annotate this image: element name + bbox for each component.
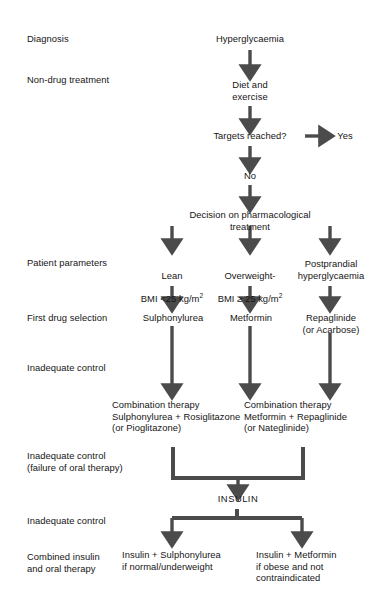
node-branch-postprandial: Postprandial hyperglycaemia bbox=[283, 258, 379, 281]
node-final-insulin-sulphonylurea: Insulin + Sulphonylurea if normal/underw… bbox=[122, 549, 252, 572]
node-final-insulin-metformin: Insulin + Metformin if obese and not con… bbox=[256, 549, 386, 584]
stage-label-combined-insulin-oral-therapy: Combined insulin and oral therapy bbox=[27, 551, 100, 574]
stage-label-inadequate-control-1: Inadequate control bbox=[27, 362, 106, 374]
node-drug-repaglinide: Repaglinide (or Acarbose) bbox=[283, 312, 379, 335]
branch-lean-line1: Lean bbox=[161, 270, 182, 281]
branch-overweight-line2: BMI ≥ 25 kg/m bbox=[218, 293, 279, 304]
node-decision-pharmacological-treatment: Decision on pharmacological treatment bbox=[181, 209, 320, 232]
stage-label-first-drug-selection: First drug selection bbox=[27, 312, 107, 324]
stage-label-non-drug-treatment: Non-drug treatment bbox=[27, 74, 109, 86]
node-yes: Yes bbox=[337, 130, 352, 142]
node-insulin: INSULIN bbox=[218, 493, 259, 505]
node-diet-and-exercise: Diet and exercise bbox=[232, 79, 267, 102]
split-bracket-from-insulin bbox=[172, 509, 302, 518]
node-hyperglycaemia: Hyperglycaemia bbox=[216, 33, 284, 45]
node-drug-metformin: Metformin bbox=[230, 312, 272, 324]
branch-overweight-superscript: 2 bbox=[279, 292, 283, 299]
node-combination-therapy-right: Combination therapy Metformin + Repaglin… bbox=[244, 399, 384, 434]
stage-label-inadequate-control-oral-failure: Inadequate control (failure of oral ther… bbox=[27, 450, 123, 473]
node-drug-sulphonylurea: Sulphonylurea bbox=[143, 312, 204, 324]
branch-lean-line2: BMI <25 kg/m bbox=[141, 293, 200, 304]
stage-label-diagnosis: Diagnosis bbox=[27, 33, 69, 45]
node-combination-therapy-left: Combination therapy Sulphonylurea + Rosi… bbox=[112, 399, 252, 434]
stage-label-patient-parameters: Patient parameters bbox=[27, 257, 107, 269]
stage-label-inadequate-control-3: Inadequate control bbox=[27, 515, 106, 527]
node-no: No bbox=[244, 170, 256, 182]
merge-bracket-to-insulin bbox=[173, 447, 303, 478]
node-targets-reached: Targets reached? bbox=[213, 130, 286, 142]
branch-overweight-line1: Overweight- bbox=[224, 270, 275, 281]
flowchart-diagram: Diagnosis Non-drug treatment Patient par… bbox=[0, 0, 389, 608]
